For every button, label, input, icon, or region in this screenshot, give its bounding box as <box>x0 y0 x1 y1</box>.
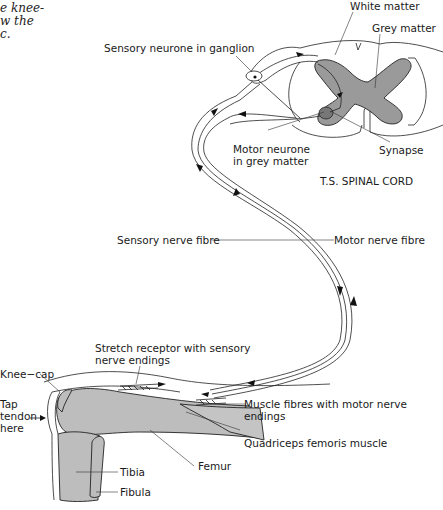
label-fibula: Fibula <box>120 486 151 498</box>
label-femur: Femur <box>198 460 232 472</box>
label-sensory-nerve-fibre: Sensory nerve fibre <box>117 234 220 246</box>
label-tap-line2: tendon <box>0 410 37 422</box>
knee-jerk-reflex-diagram: e knee- w the c. <box>0 0 443 510</box>
label-white-matter: White matter <box>350 0 420 12</box>
caption-line-2: w the <box>0 14 34 28</box>
label-stretch-receptor-line1: Stretch receptor with sensory <box>95 342 250 354</box>
diagram-title: T.S. SPINAL CORD <box>319 175 413 187</box>
dorsal-root <box>236 47 318 118</box>
label-synapse: Synapse <box>379 144 424 156</box>
label-grey-matter: Grey matter <box>372 22 437 34</box>
caption-line-3: c. <box>0 27 11 41</box>
label-quadriceps: Quadriceps femoris muscle <box>244 437 387 449</box>
label-tap-line1: Tap <box>0 398 18 410</box>
label-tap-line3: here <box>0 422 24 434</box>
caption: e knee- w the c. <box>0 1 44 41</box>
label-stretch-receptor-line2: nerve endings <box>95 354 170 366</box>
caption-line-1: e knee- <box>0 1 44 15</box>
fibula-shape <box>90 436 104 497</box>
label-motor-nerve-fibre: Motor nerve fibre <box>334 234 425 246</box>
label-sensory-neurone: Sensory neurone in ganglion <box>104 42 255 54</box>
label-muscle-fibres-line2: endings <box>244 410 286 422</box>
label-knee-cap: Knee−cap <box>0 368 54 380</box>
label-motor-neurone-line1: Motor neurone <box>233 143 310 155</box>
label-motor-neurone-line2: in grey matter <box>233 155 309 167</box>
sensory-neurone-cell <box>253 75 256 78</box>
label-muscle-fibres-line1: Muscle fibres with motor nerve <box>244 398 407 410</box>
label-tibia: Tibia <box>119 466 145 478</box>
